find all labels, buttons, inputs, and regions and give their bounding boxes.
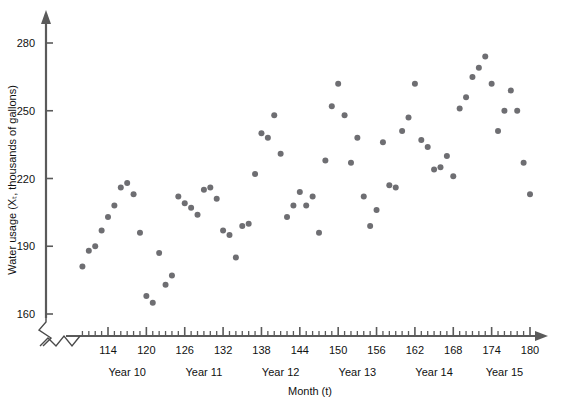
x-tick-label: 144 (291, 344, 309, 356)
data-point (284, 214, 290, 220)
data-point (297, 189, 303, 195)
data-point (201, 187, 207, 193)
chart-canvas: 160190220250280 114120126132138144150156… (0, 0, 572, 408)
data-point (303, 203, 309, 209)
data-point (527, 191, 533, 197)
data-point (316, 230, 322, 236)
x-tick-label: 162 (406, 344, 424, 356)
data-point (246, 221, 252, 227)
data-point (220, 227, 226, 233)
data-point (310, 194, 316, 200)
x-axis-year-group-label: Year 11 (186, 366, 223, 378)
data-point (489, 81, 495, 87)
data-point (521, 160, 527, 166)
y-tick-label: 190 (17, 240, 35, 252)
data-point (501, 108, 507, 114)
data-point (271, 112, 277, 118)
data-point (278, 151, 284, 157)
data-point (386, 182, 392, 188)
data-point (265, 135, 271, 141)
data-point (226, 232, 232, 238)
data-point (111, 203, 117, 209)
data-points-layer (79, 54, 533, 306)
data-point (457, 105, 463, 111)
x-tick-label: 150 (329, 344, 347, 356)
data-point (348, 160, 354, 166)
data-point (425, 144, 431, 150)
data-point (131, 191, 137, 197)
data-point (431, 166, 437, 172)
x-tick-label: 114 (99, 344, 117, 356)
x-axis-title: Month (t) (288, 385, 332, 397)
data-point (214, 196, 220, 202)
data-point (290, 203, 296, 209)
x-tick-label: 138 (252, 344, 270, 356)
data-point (406, 115, 412, 121)
data-point (86, 248, 92, 254)
x-axis-year-group-label: Year 10 (108, 366, 146, 378)
data-point (207, 185, 213, 191)
data-point (156, 250, 162, 256)
data-point (342, 112, 348, 118)
data-point (329, 103, 335, 109)
x-tick-label: 120 (137, 344, 155, 356)
data-point (99, 227, 105, 233)
x-tick-label: 126 (176, 344, 194, 356)
data-point (380, 139, 386, 145)
scatter-plot-figure: 160190220250280 114120126132138144150156… (0, 0, 572, 408)
data-point (239, 223, 245, 229)
data-point (508, 87, 514, 93)
data-point (361, 194, 367, 200)
data-point (143, 293, 149, 299)
x-tick-label: 168 (444, 344, 462, 356)
data-point (105, 214, 111, 220)
data-point (175, 194, 181, 200)
data-point (412, 81, 418, 87)
y-tick-label: 250 (17, 105, 35, 117)
data-point (335, 81, 341, 87)
data-point (137, 230, 143, 236)
data-point (514, 108, 520, 114)
data-point (399, 128, 405, 134)
x-tick-label: 174 (482, 344, 500, 356)
data-point (444, 153, 450, 159)
data-point (367, 223, 373, 229)
data-point (124, 180, 130, 186)
data-point (182, 200, 188, 206)
data-point (118, 185, 124, 191)
data-point (233, 255, 239, 261)
x-axis-year-group-label: Year 14 (415, 366, 453, 378)
data-point (169, 273, 175, 279)
x-axis-year-group-label: Year 12 (262, 366, 300, 378)
data-point (79, 264, 85, 270)
y-tick-label: 160 (17, 308, 35, 320)
data-point (188, 205, 194, 211)
data-point (450, 173, 456, 179)
data-point (437, 164, 443, 170)
data-point (482, 54, 488, 60)
data-point (469, 74, 475, 80)
y-tick-label: 220 (17, 173, 35, 185)
data-point (163, 282, 169, 288)
data-point (322, 157, 328, 163)
data-point (463, 94, 469, 100)
y-tick-label: 280 (17, 37, 35, 49)
x-axis-year-group-label: Year 15 (486, 366, 524, 378)
x-axis: 114120126132138144150156162168174180 (40, 327, 548, 356)
x-tick-label: 132 (214, 344, 232, 356)
x-axis-year-group-label: Year 13 (339, 366, 377, 378)
x-tick-label: 156 (367, 344, 385, 356)
data-point (393, 185, 399, 191)
data-point (150, 300, 156, 306)
data-point (252, 171, 258, 177)
y-axis-title: Water usage (Xₜ, thousands of gallons) (6, 85, 18, 275)
data-point (495, 128, 501, 134)
data-point (92, 243, 98, 249)
data-point (258, 130, 264, 136)
y-axis-arrowhead (41, 10, 51, 24)
data-point (476, 65, 482, 71)
data-point (374, 207, 380, 213)
x-axis-break-symbol (40, 336, 80, 346)
x-tick-label: 180 (521, 344, 539, 356)
y-axis: 160190220250280 (17, 10, 53, 346)
